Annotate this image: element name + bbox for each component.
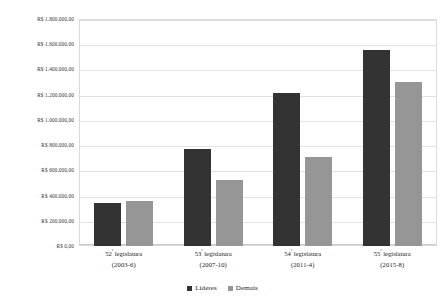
bar-group <box>184 19 243 246</box>
y-axis-tick-label: R$ 1.000.000,00 <box>37 117 74 123</box>
legend-swatch-icon <box>228 286 233 291</box>
bar-lideres <box>94 203 121 246</box>
x-axis-tick-label: 55ª legislatura(2015-8) <box>348 249 438 270</box>
bar-demais <box>126 201 153 246</box>
y-axis-tick-label: R$ 400.000,00 <box>41 193 74 199</box>
legend-swatch-icon <box>187 286 192 291</box>
y-axis-tick-label: R$ 1.800.000,00 <box>37 16 74 22</box>
y-axis-tick-label: R$ 1.400.000,00 <box>37 66 74 72</box>
x-axis-tick-label: 52ª legislatura(2003-6) <box>79 249 169 270</box>
bar-groups <box>79 19 437 246</box>
chart-legend: Líderes Demais <box>0 284 445 292</box>
legend-label: Demais <box>236 284 258 292</box>
bar-lideres <box>363 50 390 246</box>
bar-lideres <box>273 93 300 246</box>
legend-item-lideres: Líderes <box>187 284 217 292</box>
y-axis-tick-label: R$ 1.200.000,00 <box>37 92 74 98</box>
bar-group <box>273 19 332 246</box>
bar-demais <box>305 157 332 246</box>
y-axis-tick-label: R$ 200.000,00 <box>41 218 74 224</box>
x-axis-tick-label: 54ª legislatura(2011-4) <box>258 249 348 270</box>
y-axis-tick-label: R$ 0,00 <box>57 243 74 249</box>
x-axis-tick-label: 53ª legislatura(2007-10) <box>169 249 259 270</box>
bar-group <box>94 19 153 246</box>
y-axis-tick-label: R$ 600.000,00 <box>41 167 74 173</box>
bar-group <box>363 19 422 246</box>
bar-demais <box>395 82 422 246</box>
bar-chart: R$ 1.800.000,00 R$ 1.600.000,00 R$ 1.400… <box>0 0 445 301</box>
legend-item-demais: Demais <box>228 284 258 292</box>
legend-label: Líderes <box>195 284 217 292</box>
y-axis-tick-label: R$ 800.000,00 <box>41 142 74 148</box>
x-axis: 52ª legislatura(2003-6)53ª legislatura(2… <box>79 249 437 279</box>
bar-demais <box>216 180 243 246</box>
bar-lideres <box>184 149 211 246</box>
y-axis-tick-label: R$ 1.600.000,00 <box>37 41 74 47</box>
y-axis: R$ 1.800.000,00 R$ 1.600.000,00 R$ 1.400… <box>0 0 79 247</box>
